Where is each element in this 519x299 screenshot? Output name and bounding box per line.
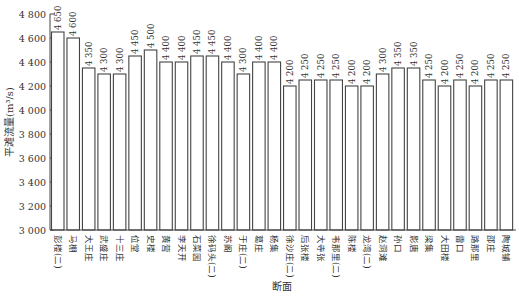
bar-group: 4 300 [98,48,111,230]
bar-group: 4 450 [206,30,219,230]
bars: 4 6504 6004 3504 3004 3004 4504 5004 400… [52,6,513,230]
x-category-label: 石菜园 [192,235,202,262]
bar-group: 4 300 [376,48,389,230]
y-tick-label: 4 200 [19,81,46,92]
bar-value-label: 4 250 [501,54,511,78]
bar-value-label: 4 450 [192,30,202,54]
x-category-label: 孙口 [393,235,403,253]
bar-group: 4 400 [160,36,173,230]
bar [237,74,250,230]
bar [206,56,219,230]
x-category-label: 彭楼(二) [53,235,63,269]
bar [469,86,482,230]
bar [423,80,436,230]
bar-value-label: 4 200 [470,60,480,84]
bar-group: 4 650 [52,6,65,230]
bar-group: 4 250 [500,54,513,230]
x-category-label: 大王庄 [84,235,94,262]
bar [253,62,265,230]
x-category-label: 位堂 [130,235,140,253]
bar-value-label: 4 250 [486,54,496,78]
x-category-label: 杨集 [269,235,279,253]
x-category-label: 十三庄 [115,235,125,262]
x-category-label: 葛庄 [254,235,264,253]
bar [222,62,235,230]
bar-value-label: 4 400 [254,36,264,60]
x-category-label: 雷口 [455,235,465,253]
bar-value-label: 4 450 [130,30,140,54]
x-category-label: 后张楼 [300,235,310,262]
bar [392,68,405,230]
bar-group: 4 200 [361,60,374,230]
bar-value-label: 4 300 [238,48,248,72]
y-tick-label: 4 000 [19,105,46,116]
bar [113,74,126,230]
bar-value-label: 4 400 [177,36,187,60]
y-tick-label: 3 200 [19,201,46,212]
bar [67,38,80,230]
bar-group: 4 600 [67,12,80,230]
bar [160,62,173,230]
x-axis-title: 断面 [272,280,292,292]
bar-value-label: 4 200 [362,60,372,84]
x-category-label: 陈楼 [347,235,357,253]
bar-group: 4 400 [253,36,265,230]
bar-group: 4 500 [144,24,157,230]
bar [314,80,327,230]
y-axis: 3 0003 2003 4003 6003 8004 0004 2004 400… [19,9,54,236]
x-category-label: 黄营 [161,235,171,253]
x-category-label: 武盛庄 [99,235,109,262]
bar-group: 4 350 [407,42,420,230]
bar-group: 4 200 [438,60,451,230]
bar [268,62,281,230]
x-category-label: 龙湾(二) [362,235,372,269]
bar-value-label: 4 400 [161,36,171,60]
bar-value-label: 4 400 [269,36,279,60]
bar-value-label: 4 350 [84,42,94,66]
x-category-label: 苏阁 [223,235,233,253]
y-tick-label: 3 400 [19,177,46,188]
bar-value-label: 4 250 [455,54,465,78]
x-category-label: 徐码头(二) [207,235,217,278]
bar [299,80,312,230]
bar-group: 4 300 [113,48,126,230]
bar [330,80,343,230]
bar [82,68,95,230]
bar-group: 4 250 [314,54,327,230]
bar [454,80,467,230]
x-axis: 彭楼(二)马棚大王庄武盛庄十三庄位堂史楼黄营李天开石菜园徐码头(二)苏阁于庄(二… [50,230,516,278]
x-category-label: 影唐 [409,235,419,253]
bar-value-label: 4 450 [207,30,217,54]
bar-group: 4 400 [175,36,188,230]
bar-value-label: 4 300 [115,48,125,72]
bar-group: 4 200 [469,60,482,230]
bar [345,86,358,230]
x-category-label: 大寺张 [316,235,326,262]
bar-value-label: 4 300 [378,48,388,72]
x-category-label: 大田楼 [440,235,450,262]
bar-group: 4 350 [82,42,95,230]
bar-value-label: 4 500 [146,24,156,48]
bar [191,56,204,230]
bar-value-label: 4 200 [285,60,295,84]
x-category-label: 陶城铺 [501,235,511,262]
bar-value-label: 4 250 [300,54,310,78]
bar-group: 4 250 [423,54,436,230]
bar-value-label: 4 400 [223,36,233,60]
x-category-label: 邵庄 [486,235,496,253]
bar-group: 4 200 [345,60,358,230]
y-tick-label: 4 800 [19,9,46,20]
bar [98,74,111,230]
bar [175,62,188,230]
bar-group: 4 250 [485,54,498,230]
bar-value-label: 4 250 [331,54,341,78]
x-category-label: 梁集 [424,235,434,253]
bar-group: 4 300 [237,48,250,230]
bar-group: 4 250 [330,54,343,230]
bar [438,86,451,230]
bar-group: 4 250 [454,54,467,230]
bar-group: 4 250 [299,54,312,230]
x-category-label: 史楼 [146,235,156,253]
bar-group: 4 200 [284,60,297,230]
x-category-label: 于庄(二) [238,235,248,269]
